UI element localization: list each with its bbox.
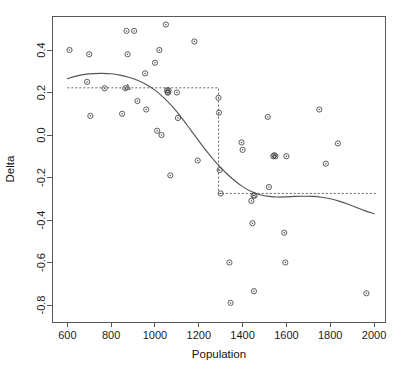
data-point: [157, 47, 162, 52]
data-point: [132, 28, 137, 33]
data-point: [124, 28, 129, 33]
y-tick-label: -0.2: [35, 168, 47, 187]
data-point: [87, 52, 92, 57]
x-tick-label: 1600: [274, 329, 298, 341]
x-axis-title: Population: [192, 348, 246, 360]
y-tick-label: 0.0: [35, 127, 47, 142]
data-point: [227, 260, 232, 265]
y-tick-label: -0.4: [35, 211, 47, 230]
data-point: [250, 221, 255, 226]
x-tick-label: 600: [58, 329, 76, 341]
x-axis-ticks: 600800100012001400160018002000: [58, 322, 386, 341]
data-point: [102, 86, 107, 91]
data-point: [335, 141, 340, 146]
data-point: [152, 60, 157, 65]
data-point: [317, 107, 322, 112]
data-point: [125, 52, 130, 57]
y-tick-label: 0.4: [35, 42, 47, 57]
data-point: [364, 291, 369, 296]
data-point: [284, 154, 289, 159]
data-point: [283, 260, 288, 265]
data-point: [249, 198, 254, 203]
data-point: [192, 39, 197, 44]
data-points: [67, 22, 369, 306]
x-tick-label: 1800: [318, 329, 342, 341]
data-point: [84, 79, 89, 84]
x-tick-label: 800: [102, 329, 120, 341]
data-point: [195, 158, 200, 163]
step-function-line: [67, 88, 376, 194]
data-point: [88, 113, 93, 118]
data-point: [155, 128, 160, 133]
x-tick-label: 1200: [187, 329, 211, 341]
data-point: [67, 47, 72, 52]
data-point: [266, 184, 271, 189]
data-point: [135, 98, 140, 103]
x-tick-label: 2000: [362, 329, 386, 341]
data-point: [282, 230, 287, 235]
data-point: [159, 132, 164, 137]
data-point: [120, 111, 125, 116]
y-tick-label: -0.8: [35, 296, 47, 315]
x-tick-label: 1000: [143, 329, 167, 341]
data-point: [217, 167, 222, 172]
data-point: [168, 173, 173, 178]
data-point: [323, 161, 328, 166]
data-point: [163, 22, 168, 27]
x-tick-label: 1400: [230, 329, 254, 341]
fitted-curve-line: [67, 73, 374, 213]
data-point: [144, 107, 149, 112]
data-point: [143, 71, 148, 76]
y-axis-title: Delta: [4, 155, 16, 182]
data-point: [240, 147, 245, 152]
chart-container: 600800100012001400160018002000 0.40.20.0…: [0, 0, 412, 372]
y-tick-label: -0.6: [35, 253, 47, 272]
data-point: [239, 140, 244, 145]
scatter-plot: 600800100012001400160018002000 0.40.20.0…: [0, 0, 412, 372]
data-point: [265, 114, 270, 119]
data-point: [228, 300, 233, 305]
data-point: [216, 95, 221, 100]
data-point: [174, 90, 179, 95]
y-axis-ticks: 0.40.20.0-0.2-0.4-0.6-0.8: [35, 42, 52, 314]
data-point: [251, 289, 256, 294]
y-tick-label: 0.2: [35, 85, 47, 100]
data-point: [175, 115, 180, 120]
